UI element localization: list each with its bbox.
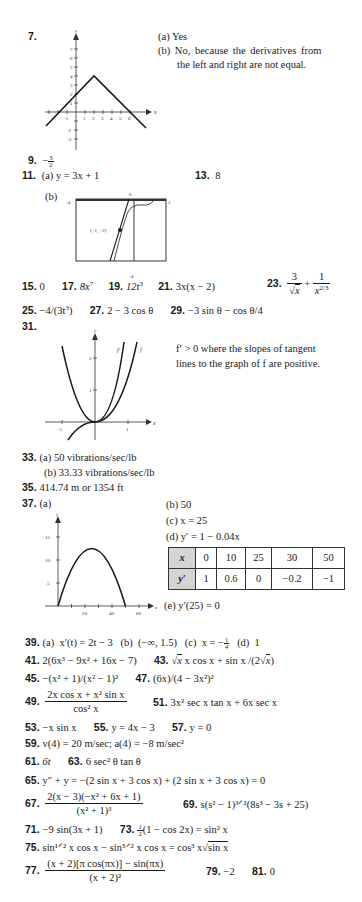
problem-number: 19. — [108, 280, 123, 292]
problem-number: 33. — [22, 451, 37, 463]
answer: −x sin x — [43, 722, 77, 733]
problem-number: 21. — [158, 280, 173, 292]
svg-text:x: x — [154, 605, 158, 610]
fraction: (x + 2)[π cos(πx)] − sin(πx)(x + 2)² — [45, 857, 165, 884]
problem-number: 37. — [22, 497, 37, 509]
answer: −4/(3t — [40, 305, 66, 316]
answer: 3x² sec x tan x + 6x sec x — [171, 697, 277, 708]
answer-7a: (a) Yes — [158, 30, 321, 44]
problem-number: 47. — [135, 672, 150, 684]
svg-text:20: 20 — [82, 611, 88, 616]
problem-77: 77. (x + 2)[π cos(πx)] − sin(πx)(x + 2)² — [25, 857, 165, 884]
answer: x cos x + sin x /(2 — [185, 655, 260, 666]
problem-37: 37.(a) — [22, 497, 51, 510]
problem-13: 13. 8 — [195, 169, 220, 182]
answer: 6 sec² θ tan θ — [86, 756, 141, 767]
problems-71-73-row: 71.−9 sin(3x + 1) 73.12(1 − cos 2x) = si… — [25, 823, 228, 838]
problem-number: 31. — [22, 320, 37, 332]
svg-text:10: 10 — [45, 558, 51, 563]
problems-45-47-row: 45.−(x² + 1)/(x² − 1)² 47.(6x)/(4 − 3x²)… — [25, 672, 214, 685]
svg-text:2: 2 — [89, 356, 92, 361]
answer: 8 — [215, 170, 220, 181]
answer-11b-label: (b) — [45, 190, 57, 203]
fraction: 1x2/3 — [313, 270, 331, 297]
problem-9: 9. −32 — [28, 154, 54, 169]
fraction: 2(x − 3)(−x² + 6x + 1)(x² + 1)³ — [45, 790, 142, 817]
svg-text:-3: -3 — [67, 137, 72, 142]
fraction: 3√x — [287, 270, 301, 297]
answer: 8x — [80, 281, 90, 292]
svg-text:4: 4 — [70, 74, 73, 79]
svg-text:-1: -1 — [58, 427, 63, 432]
answer: y″ + y = −(2 sin x + 3 cos x) + (2 sin x… — [43, 775, 266, 786]
svg-text:-1: -1 — [64, 116, 69, 121]
answer: −9 sin(3x + 1) — [43, 824, 103, 835]
derivative-table: x 0 10 25 30 50 y′ 1 0.6 0 −0.2 −1 — [168, 547, 345, 590]
svg-text:f: f — [140, 347, 143, 353]
svg-text:y: y — [93, 330, 97, 333]
svg-text:y: y — [55, 513, 59, 517]
answer-33a: (a) 50 vibrations/sec/lb — [40, 452, 137, 463]
answer: 2(6x³ − 9x² + 16x − 7) — [43, 655, 137, 666]
answer-31-line2: lines to the graph of f are positive. — [176, 356, 320, 371]
problem-7: 7. — [28, 30, 40, 43]
problem-number: 43. — [154, 654, 169, 666]
problem-number: 69. — [183, 798, 198, 810]
problem-number: 39. — [25, 636, 40, 648]
answer: y = 4x − 3 — [111, 722, 154, 733]
graph-problem-7: x y -1123 456 7654 321 -2-3 — [42, 28, 160, 150]
fraction: 32 — [48, 155, 53, 169]
svg-text:2: 2 — [168, 200, 171, 205]
problem-31: 31. — [22, 320, 40, 333]
answer: 0 — [270, 866, 275, 877]
problem-number: 79. — [206, 865, 221, 877]
svg-text:-2: -2 — [67, 128, 72, 133]
answer: 2 − 3 cos θ — [107, 305, 153, 316]
problem-number: 23. — [267, 277, 282, 289]
svg-text:6: 6 — [128, 116, 131, 121]
answer-11a: (a) y = 3x + 1 — [42, 170, 100, 181]
answer: sin¹ᐟ² x cos x − sin⁵ᐟ² x cos x = cos³ x — [43, 842, 203, 853]
answer: v(4) = 20 m/sec; a(4) = −8 m/sec² — [43, 738, 184, 749]
problem-number: 77. — [25, 864, 40, 876]
problem-31-text: f′ > 0 where the slopes of tangent lines… — [176, 341, 320, 371]
svg-text:2: 2 — [70, 92, 73, 97]
answer-31-line1: f′ > 0 where the slopes of tangent — [176, 341, 320, 356]
problems-53-57-row: 53.−x sin x 55.y = 4x − 3 57.y = 0 — [25, 721, 211, 734]
answer-37a: (a) — [40, 498, 52, 509]
problem-23: 23. 3√x + 1x2/3 — [267, 270, 330, 297]
problem-number: 27. — [90, 304, 105, 316]
answer: (a) x′(t) = 2t − 3 (b) (−∞, 1.5) (c) x =… — [43, 637, 224, 648]
problem-number: 75. — [25, 841, 40, 853]
problem-number: 41. — [25, 654, 40, 666]
problem-number: 35. — [22, 481, 37, 493]
problem-35: 35.414.74 m or 1354 ft — [22, 481, 123, 494]
answer-33b: (b) 33.33 vibrations/sec/lb — [44, 466, 155, 479]
problem-number: 51. — [153, 696, 168, 708]
problems-79-81-row: 79.−2 81.0 — [206, 865, 275, 878]
table-row: x 0 10 25 30 50 — [169, 548, 345, 569]
answer-7b-line2: the left and right are not equal. — [158, 58, 321, 72]
problem-number: 57. — [172, 721, 187, 733]
answer-37e: (e) y′(25) = 0 — [164, 599, 220, 612]
problem-number: 61. — [25, 755, 40, 767]
problem-number: 71. — [25, 823, 40, 835]
problem-49: 49. 2x cos x + x² sin xcos² x — [25, 688, 127, 715]
answer: 6t — [43, 756, 51, 767]
problems-15-23-row: 15.0 17.8x7 19.12t3 21.3x(x − 2) — [22, 280, 215, 293]
answer: 414.74 m or 1354 ft — [40, 482, 124, 493]
problem-33: 33.(a) 50 vibrations/sec/lb — [22, 451, 136, 464]
problem-number: 59. — [25, 737, 40, 749]
svg-text:6: 6 — [70, 56, 73, 61]
problem-number: 63. — [68, 755, 83, 767]
problem-37-text: (b) 50 (c) x = 25 (d) y′ = 1 − 0.04x — [166, 497, 240, 545]
graph-problem-11: 0 -4 2 -4 (−1, −2) — [66, 190, 176, 280]
fraction: 2x cos x + x² sin xcos² x — [45, 688, 126, 715]
svg-text:1: 1 — [70, 101, 73, 106]
problem-number: 17. — [62, 280, 77, 292]
answer: s(s² − 1)³ᐟ²(8s³ − 3s + 25) — [201, 799, 309, 810]
problem-number: 29. — [170, 304, 185, 316]
problem-number: 7. — [28, 30, 37, 42]
svg-text:3: 3 — [70, 83, 73, 88]
graph-problem-31: x y -1112 f′ f — [40, 330, 165, 445]
